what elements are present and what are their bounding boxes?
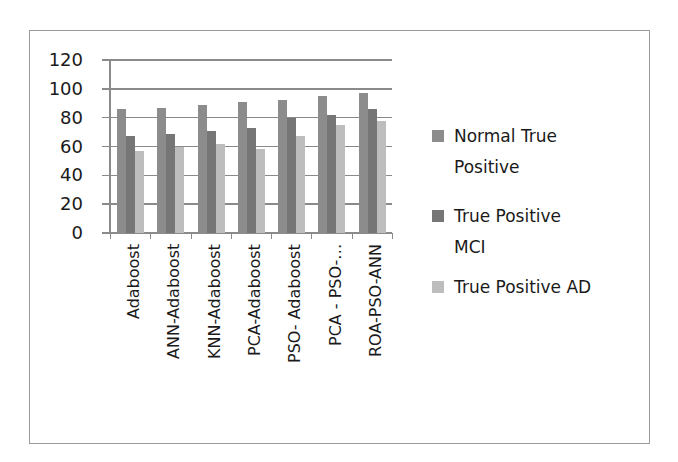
bar-normal-true-positive <box>318 96 327 233</box>
x-axis-category-label: KNN-Adaboost <box>207 244 223 359</box>
bar-normal-true-positive <box>278 100 287 233</box>
legend-label: True Positive <box>454 204 561 228</box>
bar-normal-true-positive <box>117 109 126 233</box>
bar-true-positive-ad <box>216 144 225 233</box>
bar-true-positive-mci <box>327 115 336 233</box>
bar-normal-true-positive <box>238 102 247 233</box>
gridline <box>102 59 392 61</box>
bar-normal-true-positive <box>157 108 166 233</box>
x-axis-category-label: ANN-Adaboost <box>166 244 182 359</box>
x-axis-category-label: ROA-PSO-ANN <box>368 244 384 357</box>
bar-true-positive-ad <box>377 121 386 233</box>
legend-swatch <box>432 210 444 222</box>
bar-true-positive-mci <box>166 134 175 233</box>
chart-frame <box>29 30 650 444</box>
bar-true-positive-ad <box>256 149 265 233</box>
x-axis-tick <box>150 233 151 239</box>
y-axis-tick-label: 120 <box>33 51 83 69</box>
y-axis-tick-label: 100 <box>33 80 83 98</box>
x-axis-tick <box>191 233 192 239</box>
x-axis-tick <box>231 233 232 239</box>
legend-label: True Positive AD <box>454 275 591 299</box>
y-axis-tick-label: 20 <box>33 195 83 213</box>
x-axis-tick <box>392 233 393 239</box>
bar-true-positive-ad <box>175 147 184 234</box>
x-axis-tick <box>110 233 111 239</box>
x-axis-tick <box>271 233 272 239</box>
y-axis-tick-label: 40 <box>33 166 83 184</box>
y-axis-line <box>109 60 111 234</box>
bar-true-positive-mci <box>126 136 135 233</box>
bar-true-positive-ad <box>135 151 144 233</box>
x-axis-category-label: PCA - PSO-… <box>328 244 344 346</box>
gridline <box>102 88 392 90</box>
bar-true-positive-mci <box>207 131 216 233</box>
legend-swatch <box>432 281 444 293</box>
legend-label-continued: MCI <box>454 235 486 259</box>
y-axis-tick-label: 80 <box>33 109 83 127</box>
y-axis-tick-label: 0 <box>33 224 83 242</box>
x-axis-category-label: PCA-Adaboost <box>247 244 263 356</box>
x-axis-category-label: Adaboost <box>126 244 142 319</box>
bar-true-positive-mci <box>287 118 296 233</box>
x-axis-category-label: PSO- Adaboost <box>287 244 303 363</box>
bar-true-positive-ad <box>336 125 345 233</box>
legend-label: Normal True <box>454 124 557 148</box>
bar-true-positive-mci <box>247 128 256 233</box>
x-axis-tick <box>311 233 312 239</box>
x-axis-tick <box>352 233 353 239</box>
bar-true-positive-mci <box>368 109 377 233</box>
bar-true-positive-ad <box>296 136 305 233</box>
gridline <box>102 117 392 119</box>
legend-swatch <box>432 130 444 142</box>
bar-normal-true-positive <box>198 105 207 233</box>
bar-normal-true-positive <box>359 93 368 233</box>
legend-label-continued: Positive <box>454 155 520 179</box>
y-axis-tick-label: 60 <box>33 138 83 156</box>
